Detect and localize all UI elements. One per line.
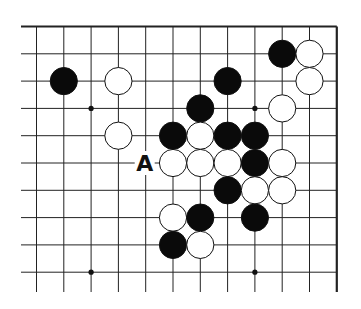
white-stone xyxy=(187,122,214,149)
black-stone xyxy=(187,95,214,122)
labels-layer: A xyxy=(135,151,155,176)
black-stone xyxy=(159,231,186,258)
star-point xyxy=(252,106,257,111)
black-stone xyxy=(187,204,214,231)
white-stone xyxy=(159,149,186,176)
white-stone xyxy=(296,68,323,95)
point-label: A xyxy=(136,151,153,176)
star-point xyxy=(89,106,94,111)
black-stone xyxy=(269,40,296,67)
black-stone xyxy=(50,68,77,95)
go-board: A xyxy=(0,0,361,309)
star-point xyxy=(252,270,257,275)
black-stone xyxy=(214,177,241,204)
black-stone xyxy=(159,122,186,149)
white-stone xyxy=(269,95,296,122)
black-stone xyxy=(241,122,268,149)
black-stone xyxy=(214,122,241,149)
black-stone xyxy=(214,68,241,95)
black-stone xyxy=(241,149,268,176)
white-stone xyxy=(269,177,296,204)
white-stone xyxy=(105,122,132,149)
white-stone xyxy=(296,40,323,67)
white-stone xyxy=(105,68,132,95)
white-stone xyxy=(214,149,241,176)
black-stone xyxy=(241,204,268,231)
white-stone xyxy=(187,149,214,176)
white-stone xyxy=(187,231,214,258)
white-stone xyxy=(269,149,296,176)
white-stone xyxy=(241,177,268,204)
white-stone xyxy=(159,204,186,231)
star-point xyxy=(89,270,94,275)
